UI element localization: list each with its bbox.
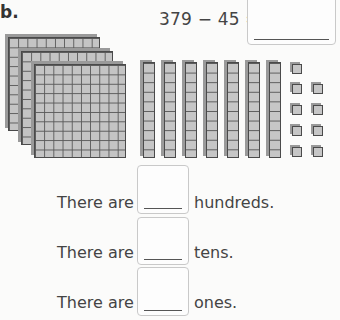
row-prefix: There are bbox=[57, 193, 134, 212]
row-prefix: There are bbox=[57, 293, 134, 312]
ten-rod bbox=[206, 62, 218, 158]
answer-underline bbox=[144, 259, 182, 261]
one-cube bbox=[313, 84, 323, 94]
ten-rod bbox=[248, 62, 260, 158]
row-prefix: There are bbox=[57, 243, 134, 262]
ten-rod bbox=[269, 62, 281, 158]
equation-text: 379 − 45 = bbox=[159, 9, 260, 29]
answer-underline bbox=[144, 310, 182, 312]
one-cube bbox=[292, 147, 302, 157]
row-unit: hundreds. bbox=[194, 193, 274, 212]
ten-rod bbox=[185, 62, 197, 158]
one-cube bbox=[313, 147, 323, 157]
row-unit: ones. bbox=[194, 293, 237, 312]
one-cube bbox=[292, 64, 302, 74]
equation-answer-box[interactable] bbox=[247, 0, 336, 45]
row-unit: tens. bbox=[194, 243, 234, 262]
one-cube bbox=[292, 84, 302, 94]
answer-underline bbox=[254, 39, 329, 41]
tens-answer-box[interactable] bbox=[137, 217, 189, 265]
ten-rod bbox=[143, 62, 155, 158]
one-cube bbox=[313, 126, 323, 136]
ten-rod bbox=[164, 62, 176, 158]
hundreds-answer-box[interactable] bbox=[137, 165, 189, 214]
one-cube bbox=[292, 105, 302, 115]
ten-rod bbox=[227, 62, 239, 158]
answer-underline bbox=[144, 208, 182, 210]
ones-answer-box[interactable] bbox=[137, 267, 189, 316]
problem-label: b. bbox=[0, 2, 19, 22]
hundred-flat bbox=[34, 64, 126, 158]
one-cube bbox=[292, 126, 302, 136]
one-cube bbox=[313, 105, 323, 115]
